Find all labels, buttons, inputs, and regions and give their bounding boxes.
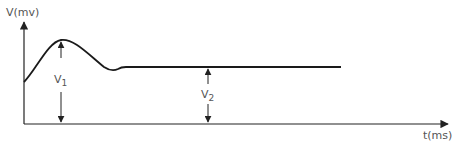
waveform-diagram: V(mv) t(ms) V1 V2 <box>0 0 458 147</box>
v1-label: V1 <box>54 73 67 88</box>
v2-label: V2 <box>201 88 214 103</box>
y-axis-label: V(mv) <box>6 6 39 19</box>
x-axis-label: t(ms) <box>423 129 452 142</box>
voltage-curve <box>24 40 341 82</box>
